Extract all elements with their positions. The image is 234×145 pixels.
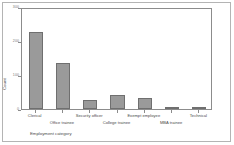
x-tick-label: Technical: [190, 114, 207, 118]
x-tick-label: Exempt employee: [127, 114, 160, 118]
bar: [56, 63, 70, 109]
bar: [192, 107, 206, 109]
bar: [29, 32, 43, 109]
bar: [165, 107, 179, 109]
y-axis-title: Count: [3, 69, 7, 99]
x-tick-mark: [117, 110, 118, 113]
x-axis-title: Employment category: [30, 132, 72, 136]
plot-area: [22, 9, 211, 109]
x-tick-mark: [171, 110, 172, 113]
plot-frame: [21, 8, 212, 110]
bar: [138, 98, 152, 109]
x-tick-mark: [62, 110, 63, 113]
chart-figure: 0100200300 Count ClericalOffice traineeS…: [0, 0, 234, 145]
x-tick-label: Security officer: [76, 114, 103, 118]
x-tick-label: MBA trainee: [160, 121, 182, 125]
y-tick-mark: [18, 110, 21, 111]
x-tick-label: Office trainee: [50, 121, 74, 125]
bar: [83, 100, 97, 109]
x-tick-label: Clerical: [28, 114, 42, 118]
x-tick-label: College trainee: [103, 121, 131, 125]
bar: [110, 95, 124, 109]
